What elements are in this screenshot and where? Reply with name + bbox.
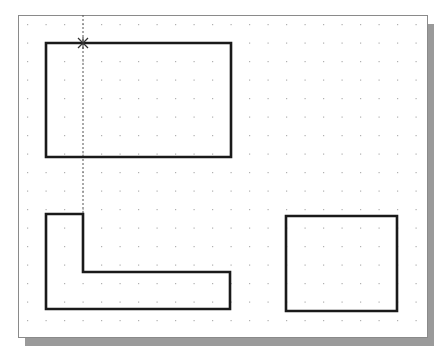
grid-dot — [360, 320, 361, 321]
grid-dot — [120, 265, 121, 266]
grid-dot — [101, 191, 102, 192]
grid-dot — [194, 172, 195, 173]
grid-dot — [83, 61, 84, 62]
grid-dot — [342, 117, 343, 118]
grid-dot — [64, 135, 65, 136]
grid-dot — [157, 154, 158, 155]
grid-dot — [323, 43, 324, 44]
grid-dot — [212, 98, 213, 99]
grid-dot — [416, 246, 417, 247]
grid-dot — [323, 320, 324, 321]
grid-dot — [379, 80, 380, 81]
grid-dot — [101, 209, 102, 210]
grid-dot — [27, 24, 28, 25]
grid-dot — [249, 43, 250, 44]
grid-dot — [268, 265, 269, 266]
grid-dot — [120, 80, 121, 81]
grid-dot — [157, 228, 158, 229]
grid-dot — [212, 228, 213, 229]
grid-dot — [268, 135, 269, 136]
grid-dot — [138, 135, 139, 136]
grid-dot — [379, 43, 380, 44]
grid-dot — [360, 154, 361, 155]
grid-dot — [138, 302, 139, 303]
grid-dot — [175, 265, 176, 266]
grid-dot — [138, 24, 139, 25]
grid-dot — [212, 320, 213, 321]
grid-dot — [397, 209, 398, 210]
grid-dot — [64, 265, 65, 266]
grid-dot — [416, 228, 417, 229]
grid-dot — [305, 228, 306, 229]
grid-dot — [212, 246, 213, 247]
grid-dot — [305, 191, 306, 192]
grid-dot — [416, 43, 417, 44]
grid-dot — [249, 117, 250, 118]
grid-dot — [101, 246, 102, 247]
grid-dot — [397, 191, 398, 192]
grid-dot — [379, 117, 380, 118]
grid-dot — [397, 80, 398, 81]
grid-dot — [360, 209, 361, 210]
grid-dot — [342, 61, 343, 62]
grid-dot — [175, 228, 176, 229]
grid-dot — [64, 191, 65, 192]
grid-dot — [379, 135, 380, 136]
grid-dot — [416, 302, 417, 303]
grid-dot — [323, 172, 324, 173]
grid-dot — [64, 154, 65, 155]
grid-dot — [397, 61, 398, 62]
grid-dot — [175, 191, 176, 192]
grid-dot — [342, 246, 343, 247]
grid-dot — [231, 172, 232, 173]
grid-dot — [268, 209, 269, 210]
grid-dot — [397, 135, 398, 136]
grid-dot — [286, 172, 287, 173]
grid-dot — [83, 302, 84, 303]
drawing-canvas[interactable] — [0, 0, 446, 358]
grid-dot — [101, 302, 102, 303]
grid-dot — [138, 283, 139, 284]
grid-dot — [157, 117, 158, 118]
grid-dot — [64, 98, 65, 99]
grid-dot — [379, 172, 380, 173]
grid-dot — [27, 265, 28, 266]
grid-dot — [101, 117, 102, 118]
grid-dot — [268, 228, 269, 229]
grid-dot — [175, 320, 176, 321]
grid-dot — [342, 228, 343, 229]
grid-dot — [138, 98, 139, 99]
grid-dot — [83, 209, 84, 210]
grid-dot — [397, 117, 398, 118]
grid-dot — [175, 61, 176, 62]
grid-dot — [342, 191, 343, 192]
grid-dot — [379, 283, 380, 284]
grid-dot — [175, 154, 176, 155]
grid-dot — [194, 191, 195, 192]
grid-dot — [27, 302, 28, 303]
grid-dot — [416, 61, 417, 62]
grid-dot — [416, 265, 417, 266]
grid-dot — [231, 246, 232, 247]
grid-dot — [268, 302, 269, 303]
grid-dot — [27, 191, 28, 192]
grid-dot — [194, 80, 195, 81]
grid-dot — [27, 283, 28, 284]
grid-dot — [416, 117, 417, 118]
grid-dot — [157, 98, 158, 99]
grid-dot — [157, 283, 158, 284]
grid-dot — [249, 135, 250, 136]
grid-dot — [416, 320, 417, 321]
cad-drawing-area[interactable] — [0, 0, 446, 358]
grid-dot — [120, 191, 121, 192]
grid-dot — [379, 246, 380, 247]
grid-dot — [212, 172, 213, 173]
grid-dot — [120, 172, 121, 173]
grid-dot — [157, 246, 158, 247]
grid-dot — [249, 24, 250, 25]
grid-dot — [249, 320, 250, 321]
grid-dot — [194, 61, 195, 62]
grid-dot — [101, 265, 102, 266]
grid-dot — [194, 135, 195, 136]
grid-dot — [286, 80, 287, 81]
